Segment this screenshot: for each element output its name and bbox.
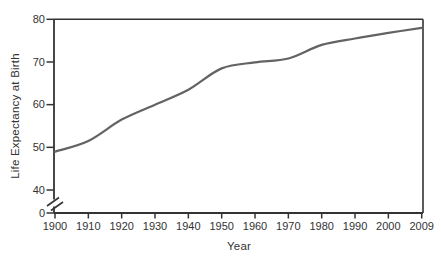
x-tick-label: 1930 <box>143 220 167 232</box>
x-tick-label: 1900 <box>43 220 67 232</box>
life-expectancy-line-chart: 8070605040019001910192019301940195019601… <box>0 0 441 263</box>
x-axis-title: Year <box>227 240 251 252</box>
x-tick-label: 1910 <box>76 220 100 232</box>
axis-break-icon <box>47 198 59 207</box>
x-tick-label: 2009 <box>409 220 433 232</box>
y-axis-title: Life Expectancy at Birth <box>9 53 21 179</box>
x-tick-label: 1970 <box>276 220 300 232</box>
x-tick-label: 2000 <box>376 220 400 232</box>
x-tick-label: 1940 <box>176 220 200 232</box>
y-tick-label: 40 <box>33 184 45 196</box>
x-tick-label: 1950 <box>209 220 233 232</box>
plot-canvas: 8070605040019001910192019301940195019601… <box>0 0 441 263</box>
y-tick-label: 80 <box>33 13 45 25</box>
x-tick-label: 1920 <box>109 220 133 232</box>
y-tick-label: 50 <box>33 141 45 153</box>
y-tick-label: 60 <box>33 98 45 110</box>
y-tick-label: 70 <box>33 56 45 68</box>
x-tick-label: 1960 <box>243 220 267 232</box>
y-tick-label: 0 <box>39 207 45 219</box>
x-tick-label: 1980 <box>309 220 333 232</box>
x-tick-label: 1990 <box>343 220 367 232</box>
data-line-life-expectancy <box>55 28 422 152</box>
axis-break-icon <box>51 202 63 211</box>
